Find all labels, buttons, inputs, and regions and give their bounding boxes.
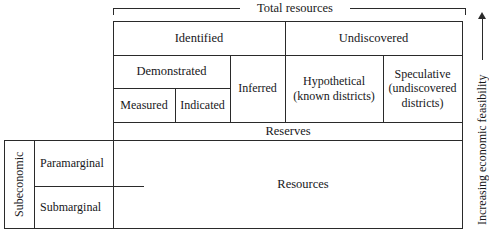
cell-hypothetical-line2: (known districts): [293, 89, 375, 103]
cell-inferred: Inferred: [230, 55, 285, 122]
mckelvey-box-diagram: Total resources Identified Undiscovered …: [0, 0, 495, 243]
cell-speculative-line2: (undiscovered: [389, 81, 457, 95]
cell-indicated: Indicated: [175, 88, 230, 122]
cell-speculative: Speculative (undiscovered districts): [383, 55, 462, 122]
economic-feasibility-axis-label: Increasing economic feasibility: [473, 62, 491, 238]
cell-hypothetical-line1: Hypothetical: [303, 74, 365, 88]
cell-speculative-line3: districts): [402, 96, 444, 110]
main-box-bottom-border: [113, 228, 463, 229]
cell-subeconomic: Subeconomic: [4, 140, 34, 229]
cell-demonstrated: Demonstrated: [113, 55, 230, 88]
total-resources-bracket-right-tick: [465, 8, 466, 15]
cell-undiscovered: Undiscovered: [285, 21, 462, 55]
cell-submarginal: Submarginal: [34, 186, 114, 229]
cell-hypothetical: Hypothetical (known districts): [285, 55, 383, 122]
cell-resources: Resources: [144, 140, 462, 228]
cell-paramarginal: Paramarginal: [34, 140, 114, 186]
cell-identified: Identified: [113, 21, 285, 55]
total-resources-bracket-left-tick: [113, 8, 114, 15]
economic-feasibility-arrow-shaft: [482, 18, 483, 60]
cell-speculative-line1: Speculative: [395, 67, 451, 81]
total-resources-label: Total resources: [240, 1, 350, 16]
cell-reserves: Reserves: [113, 122, 463, 140]
cell-measured: Measured: [113, 88, 175, 122]
